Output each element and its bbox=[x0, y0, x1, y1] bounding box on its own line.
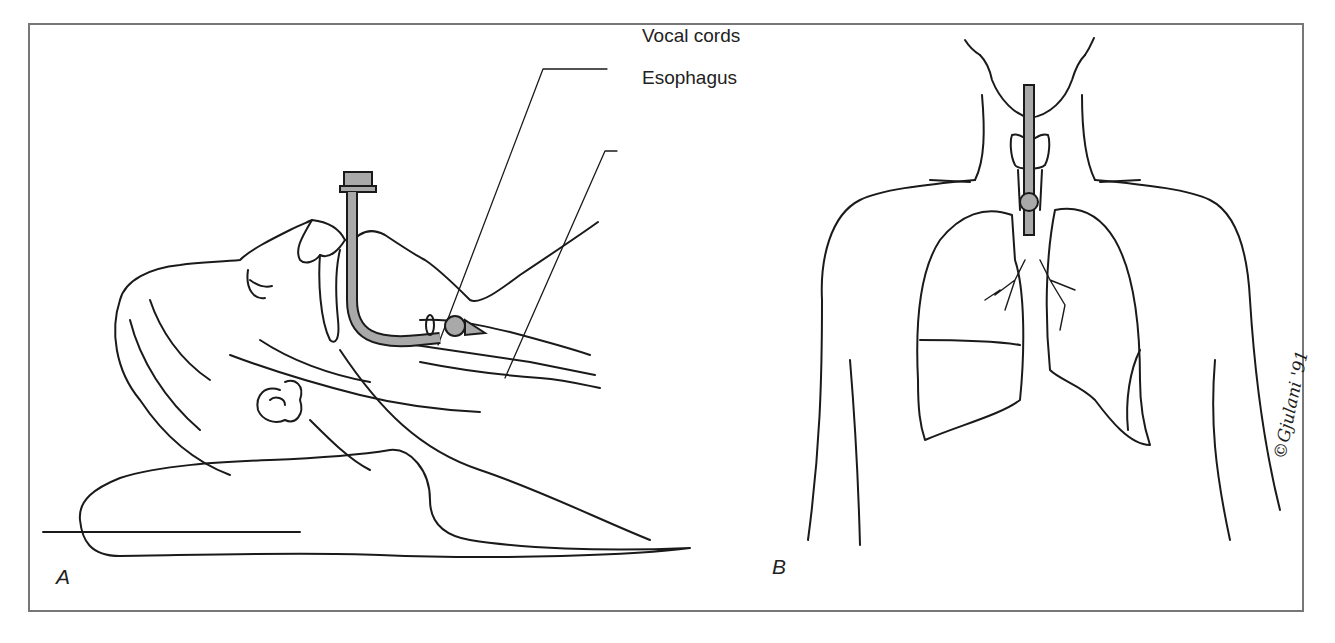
vocal-cords-label: Vocal cords bbox=[642, 25, 740, 47]
head-outline bbox=[120, 220, 345, 300]
panel-a-letter: A bbox=[56, 565, 70, 589]
bronchi bbox=[985, 260, 1075, 330]
intubation-illustration: ©Gjulani '91 bbox=[0, 0, 1335, 643]
lung-left bbox=[1047, 209, 1150, 445]
panel-b-letter: B bbox=[772, 555, 786, 579]
illustrator-signature: ©Gjulani '91 bbox=[1269, 349, 1312, 461]
mouth bbox=[319, 250, 340, 342]
pillow bbox=[80, 450, 690, 557]
esophagus-label: Esophagus bbox=[642, 67, 737, 89]
shoulder-right bbox=[1095, 180, 1280, 510]
trachea-lower bbox=[415, 345, 595, 375]
vocal-cords-leader bbox=[438, 69, 607, 345]
cuff-a bbox=[445, 316, 465, 336]
endotracheal-tube-a bbox=[340, 172, 485, 341]
endotracheal-tube-b bbox=[1020, 85, 1038, 235]
cuff-b bbox=[1020, 193, 1038, 211]
ear bbox=[257, 381, 301, 422]
lung-right bbox=[917, 211, 1023, 440]
neck-right bbox=[1082, 95, 1095, 180]
shoulder-left bbox=[808, 180, 975, 540]
neck bbox=[230, 355, 480, 412]
esophagus-leader bbox=[505, 151, 617, 378]
neck-left bbox=[975, 95, 984, 180]
eye bbox=[250, 280, 272, 287]
